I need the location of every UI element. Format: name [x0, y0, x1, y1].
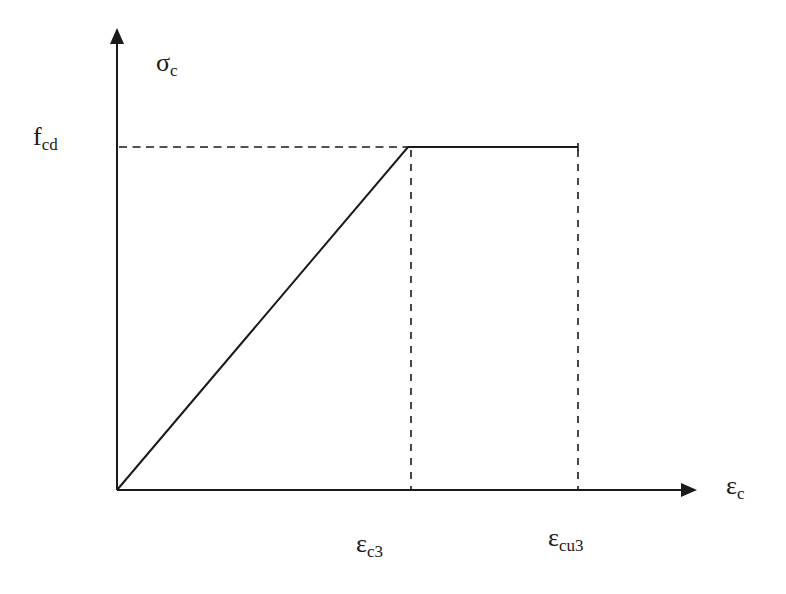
fcd-symbol: f — [33, 122, 42, 151]
ec3-label: εc3 — [356, 531, 383, 557]
sigma-subscript: c — [170, 61, 178, 80]
ec3-symbol: ε — [356, 529, 367, 558]
ecu3-label: εcu3 — [548, 525, 583, 551]
ecu3-subscript: cu3 — [559, 536, 584, 555]
y-axis-label: σc — [156, 50, 178, 76]
epsilon-symbol: ε — [726, 471, 737, 500]
y-axis-arrow-icon — [110, 28, 124, 44]
ec3-subscript: c3 — [367, 542, 383, 561]
epsilon-subscript: c — [737, 484, 745, 503]
sigma-symbol: σ — [156, 48, 170, 77]
stress-strain-diagram — [0, 0, 786, 594]
ecu3-symbol: ε — [548, 523, 559, 552]
x-axis-arrow-icon — [681, 483, 697, 497]
x-axis-label: εc — [726, 473, 744, 499]
fcd-subscript: cd — [42, 135, 58, 154]
stress-strain-curve — [117, 147, 578, 490]
fcd-label: fcd — [33, 124, 58, 150]
